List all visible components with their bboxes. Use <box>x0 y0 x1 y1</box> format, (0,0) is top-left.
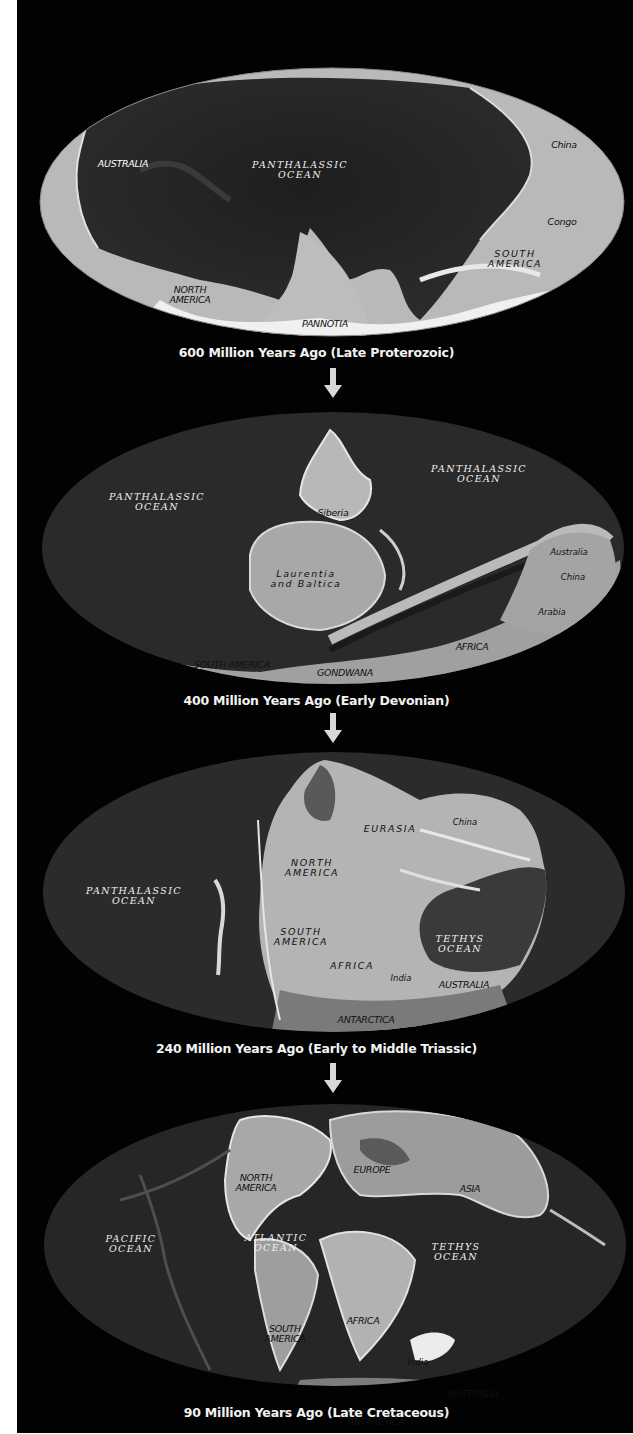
label-asia: ASIA <box>460 1184 481 1194</box>
label-europe: EUROPE <box>354 1165 391 1175</box>
label-pacific-ocean: PACIFICOCEAN <box>106 1234 157 1254</box>
map-90-ma: PACIFICOCEAN NORTHAMERICA EUROPE ASIA AT… <box>0 0 633 1400</box>
label-africa: AFRICA <box>347 1316 380 1326</box>
label-north-america: NORTHAMERICA <box>235 1173 276 1193</box>
label-australia: AUSTRALIA <box>448 1389 498 1399</box>
label-atlantic-ocean: ATLANTICOCEAN <box>245 1233 308 1253</box>
label-india: India <box>408 1358 429 1367</box>
label-south-america: SOUTHAMERICA <box>264 1324 305 1344</box>
caption-90-ma: 90 Million Years Ago (Late Cretaceous) <box>0 1405 633 1420</box>
label-tethys-ocean: TETHYSOCEAN <box>431 1242 480 1262</box>
